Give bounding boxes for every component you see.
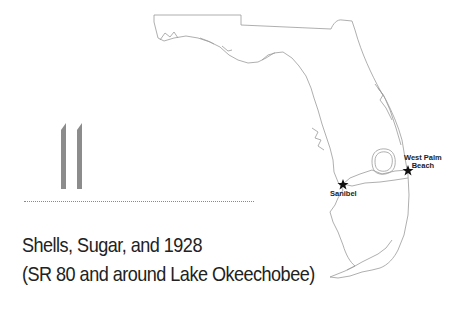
sanibel-label: Sanibel xyxy=(330,190,357,198)
east-coast-islands xyxy=(375,84,401,145)
sanibel-label-text: Sanibel xyxy=(330,189,357,198)
west-palm-beach-label-line-2: Beach xyxy=(404,162,442,170)
florida-map xyxy=(0,0,465,312)
west-palm-beach-label: West Palm Beach xyxy=(404,154,442,170)
florida-outline xyxy=(154,15,409,278)
lake-okeechobee xyxy=(372,149,395,174)
